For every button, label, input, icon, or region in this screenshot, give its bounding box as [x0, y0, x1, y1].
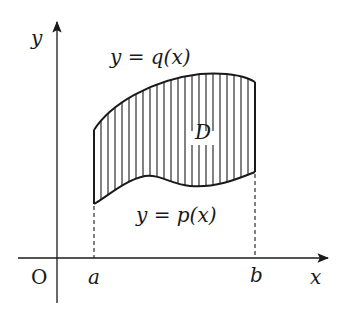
region-hatching [101, 60, 248, 220]
upper-curve-label: y = q(x) [110, 47, 190, 67]
x-axis-label: x [310, 267, 321, 287]
bound-a-label: a [88, 267, 100, 287]
upper-curve [94, 73, 255, 130]
origin-label: O [31, 267, 47, 287]
lower-curve-label: y = p(x) [136, 205, 216, 225]
bound-b-label: b [250, 265, 263, 285]
region-label: D [195, 122, 211, 142]
y-axis-label: y [31, 28, 42, 48]
diagram-canvas: y x O a b y = q(x) y = p(x) D [0, 0, 345, 318]
lower-curve [94, 172, 255, 204]
